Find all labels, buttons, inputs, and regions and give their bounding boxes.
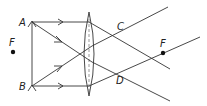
label-d: D — [116, 75, 124, 86]
focal-point-left — [11, 50, 15, 54]
focal-point-right — [161, 51, 165, 55]
label-b: B — [19, 81, 26, 92]
label-c: C — [117, 21, 124, 32]
refracted-ray-b-through-f — [89, 37, 200, 86]
refracted-ray-a-through-f — [89, 22, 170, 69]
ray-diagram: A B F F C D — [0, 0, 207, 106]
label-f-right: F — [160, 38, 166, 49]
label-a: A — [18, 17, 26, 28]
label-f-left: F — [9, 37, 15, 48]
refracted-ray-b-diagonal — [92, 7, 168, 46]
